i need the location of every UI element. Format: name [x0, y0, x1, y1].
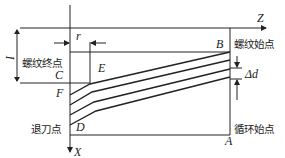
point-d-label: D: [75, 120, 85, 134]
i-label: I: [3, 55, 17, 61]
delta-d-label: Δd: [244, 67, 259, 81]
retract-point-label: 退刀点: [31, 123, 61, 135]
point-c-label: C: [55, 68, 64, 82]
x-axis-label: X: [73, 145, 82, 158]
z-axis-label: Z: [257, 11, 264, 25]
cycle-start-point-label: 循环始点: [234, 123, 274, 135]
thread-end-point-label: 螺纹终点: [22, 57, 62, 69]
thread-start-point-label: 螺纹始点: [234, 38, 274, 50]
r-label: r: [76, 29, 81, 43]
thread-cycle-diagram: Z X I r Δd B C E F D A 螺纹终点 螺纹始点 退刀点 循环始…: [0, 0, 285, 158]
point-a-label: A: [224, 134, 233, 148]
thread-pass-4: [70, 77, 230, 125]
point-f-label: F: [55, 86, 64, 100]
point-b-label: B: [216, 37, 224, 51]
point-e-label: E: [97, 61, 106, 75]
